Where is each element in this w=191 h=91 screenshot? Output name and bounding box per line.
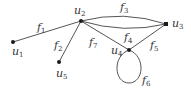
vertex-u4 [127,48,131,52]
vertex-u1 [11,40,15,44]
label-u5: u5 [56,67,68,81]
edge-f3 [81,16,166,24]
label-u2: u2 [74,4,86,18]
edge-f1 [13,21,81,42]
vertex-u3 [164,22,168,26]
label-f1: f1 [36,21,46,35]
label-f3: f3 [119,1,129,15]
label-f4: f4 [123,31,133,45]
label-u3: u3 [172,17,184,31]
label-u1: u1 [12,45,24,59]
label-f6: f6 [141,74,151,88]
vertex-u5 [57,60,61,64]
label-f2: f2 [53,39,63,53]
label-f5: f5 [149,39,159,53]
edge-f4 [81,21,166,28]
graph-diagram: u1 u2 u3 u4 u5 f1 f2 f3 f4 f5 f6 f7 [0,0,191,91]
label-u4: u4 [111,44,123,58]
label-f7: f7 [88,36,98,50]
vertex-u2 [79,19,83,23]
